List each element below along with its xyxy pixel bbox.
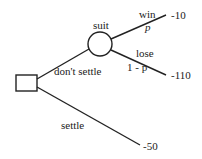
- chance-node-label: suit: [93, 19, 109, 31]
- lose-probability: 1 - p: [127, 61, 148, 73]
- win-label: win: [139, 8, 156, 20]
- decision-node: [16, 75, 37, 91]
- win-probability: p: [144, 21, 151, 33]
- settle-payoff: -50: [143, 140, 158, 152]
- lose-label: lose: [136, 47, 154, 59]
- win-payoff: -10: [171, 9, 186, 21]
- chance-node: [88, 32, 112, 56]
- branch-settle: [37, 87, 140, 145]
- lose-payoff: -110: [171, 69, 191, 81]
- decision-tree-diagram: suit don't settle settle -50 win p -10 l…: [0, 0, 202, 159]
- dont-settle-label: don't settle: [54, 65, 102, 77]
- settle-label: settle: [61, 119, 84, 131]
